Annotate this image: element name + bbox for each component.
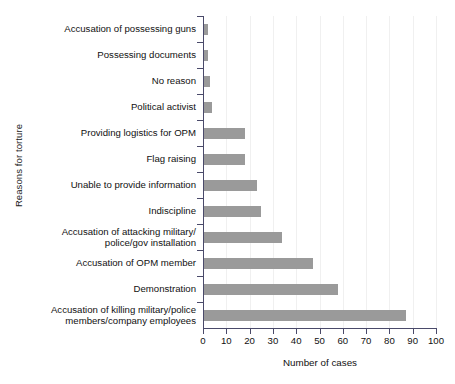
y-axis-tick-label: No reason xyxy=(14,75,196,86)
gridline xyxy=(343,16,344,328)
y-axis-tick xyxy=(197,172,203,173)
y-axis-tick xyxy=(197,68,203,69)
y-axis-tick-label: Indiscipline xyxy=(14,205,196,216)
bar xyxy=(203,206,261,217)
gridline xyxy=(413,16,414,328)
y-axis-tick-label: Accusation of attacking military/ police… xyxy=(14,226,196,249)
gridline xyxy=(436,16,437,328)
x-axis-tick xyxy=(389,329,390,334)
x-axis-tick xyxy=(226,329,227,334)
bar xyxy=(203,102,212,113)
y-axis-tick-label: Political activist xyxy=(14,101,196,112)
gridline xyxy=(250,16,251,328)
x-axis-tick xyxy=(413,329,414,334)
bar xyxy=(203,310,406,321)
y-axis-tick xyxy=(197,198,203,199)
bar xyxy=(203,258,313,269)
gridline xyxy=(320,16,321,328)
gridline xyxy=(389,16,390,328)
y-axis-tick-label: Accusation of killing military/police me… xyxy=(14,304,196,327)
bar xyxy=(203,180,257,191)
y-axis-tick xyxy=(197,302,203,303)
y-axis-tick xyxy=(197,224,203,225)
y-axis-tick xyxy=(197,146,203,147)
y-axis-tick-label: Flag raising xyxy=(14,153,196,164)
x-axis-tick xyxy=(436,329,437,334)
x-axis-tick xyxy=(320,329,321,334)
bar xyxy=(203,284,338,295)
y-axis-tick-label: Accusation of OPM member xyxy=(14,257,196,268)
y-axis-tick xyxy=(197,276,203,277)
y-axis-tick-label: Providing logistics for OPM xyxy=(14,127,196,138)
bar xyxy=(203,128,245,139)
y-axis-tick-label: Accusation of possessing guns xyxy=(14,23,196,34)
y-axis-tick xyxy=(197,250,203,251)
bar-chart: Reasons for torture Accusation of posses… xyxy=(0,0,455,384)
y-axis-tick-label: Demonstration xyxy=(14,283,196,294)
y-axis-line xyxy=(203,16,204,329)
x-axis-tick xyxy=(250,329,251,334)
gridline xyxy=(296,16,297,328)
x-axis-tick xyxy=(203,329,204,334)
y-axis-tick-labels: Accusation of possessing gunsPossessing … xyxy=(18,16,200,328)
x-axis-tick xyxy=(366,329,367,334)
y-axis-tick-label: Possessing documents xyxy=(14,49,196,60)
y-axis-tick xyxy=(197,42,203,43)
y-axis-tick xyxy=(197,94,203,95)
y-axis-tick xyxy=(197,16,203,17)
x-axis-tick xyxy=(273,329,274,334)
gridline xyxy=(366,16,367,328)
x-axis-tick xyxy=(296,329,297,334)
plot-area xyxy=(203,16,436,328)
bar xyxy=(203,232,282,243)
x-axis-title: Number of cases xyxy=(203,357,437,368)
x-axis-tick xyxy=(343,329,344,334)
y-axis-tick-label: Unable to provide information xyxy=(14,179,196,190)
y-axis-tick xyxy=(197,120,203,121)
x-axis-tick-label: 100 xyxy=(421,335,451,346)
bar xyxy=(203,154,245,165)
gridline xyxy=(273,16,274,328)
gridline xyxy=(226,16,227,328)
